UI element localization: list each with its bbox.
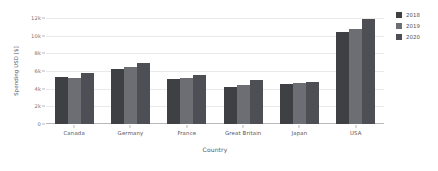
bar-group: Canada [46,18,102,124]
y-axis-tick-label: 6k [34,68,41,74]
legend: 201820192020 [396,12,420,40]
legend-item[interactable]: 2020 [396,34,420,40]
bar [250,80,263,124]
x-axis-tick-label: Great Britain [225,130,261,136]
legend-item[interactable]: 2018 [396,12,420,18]
bar [167,79,180,124]
legend-swatch [396,23,402,29]
y-axis-tick-label: 10k [31,33,41,39]
bar [362,19,375,124]
legend-swatch [396,34,402,40]
y-axis-tick-label: 4k [34,86,41,92]
y-axis-tick-mark [42,53,45,54]
y-axis-tick-label: 2k [34,103,41,109]
bar [193,75,206,124]
bar-group: Germany [102,18,158,124]
legend-label: 2020 [406,34,420,40]
legend-swatch [396,12,402,18]
bar [55,77,68,124]
bar-group: Japan [271,18,327,124]
x-axis-tick-mark [299,125,300,128]
bar [111,69,124,124]
y-axis-title: Spending USD [$] [10,18,21,124]
bar-group: Great Britain [215,18,271,124]
y-axis-title-text: Spending USD [$] [13,46,19,96]
bar [280,84,293,124]
bar [81,73,94,124]
x-axis-tick-label: Japan [292,130,308,136]
y-axis-tick-label: 0 [38,121,41,127]
bar [336,32,349,124]
x-axis-tick-mark [243,125,244,128]
y-axis-tick-mark [42,35,45,36]
y-axis-tick-mark [42,106,45,107]
plot-area: 02k4k6k8k10k12k CanadaGermanyFranceGreat… [46,18,384,124]
bar [68,78,81,124]
bar [124,67,137,124]
x-axis-tick-mark [130,125,131,128]
legend-label: 2018 [406,12,420,18]
bar [224,87,237,124]
bar [293,83,306,124]
x-axis-tick-mark [186,125,187,128]
x-axis-tick-label: France [177,130,196,136]
bar [306,82,319,124]
bar [237,85,250,124]
x-axis-tick-mark [355,125,356,128]
x-axis-title: Country [46,146,384,153]
bar [137,63,150,124]
bar-group: France [159,18,215,124]
legend-label: 2019 [406,23,420,29]
legend-item[interactable]: 2019 [396,23,420,29]
y-axis-tick-label: 12k [31,15,41,21]
y-axis-tick-mark [42,71,45,72]
y-axis-tick-mark [42,88,45,89]
bar-group: USA [328,18,384,124]
x-axis-tick-label: Canada [63,130,84,136]
y-axis-tick-mark [42,124,45,125]
x-axis-tick-label: Germany [118,130,144,136]
y-axis-tick-mark [42,18,45,19]
bar-groups: CanadaGermanyFranceGreat BritainJapanUSA [46,18,384,124]
bar [180,78,193,124]
bar [349,29,362,124]
x-axis-tick-mark [74,125,75,128]
y-axis-tick-label: 8k [34,50,41,56]
x-axis-tick-label: USA [350,130,362,136]
bar-chart: Spending USD [$] 02k4k6k8k10k12k CanadaG… [0,0,438,171]
